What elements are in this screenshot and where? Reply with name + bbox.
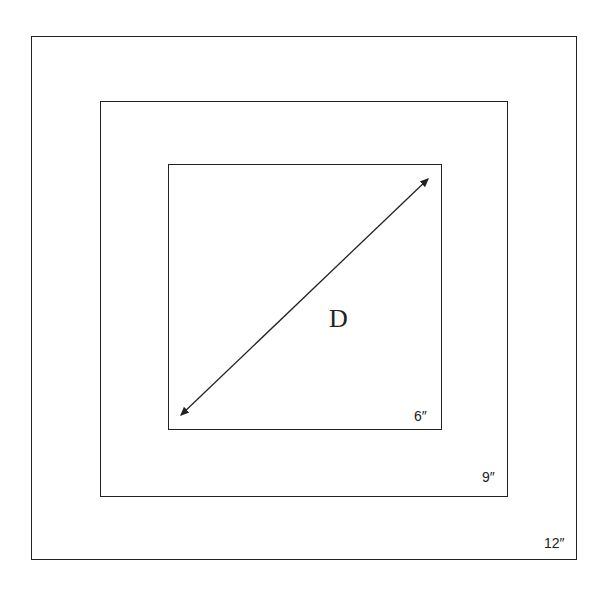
- diagonal-double-arrow: [0, 0, 611, 589]
- middle-square-size-label: 9″: [482, 469, 495, 485]
- outer-square-size-label: 12″: [544, 535, 565, 551]
- diagonal-label: D: [329, 304, 348, 334]
- inner-square-size-label: 6″: [414, 408, 427, 424]
